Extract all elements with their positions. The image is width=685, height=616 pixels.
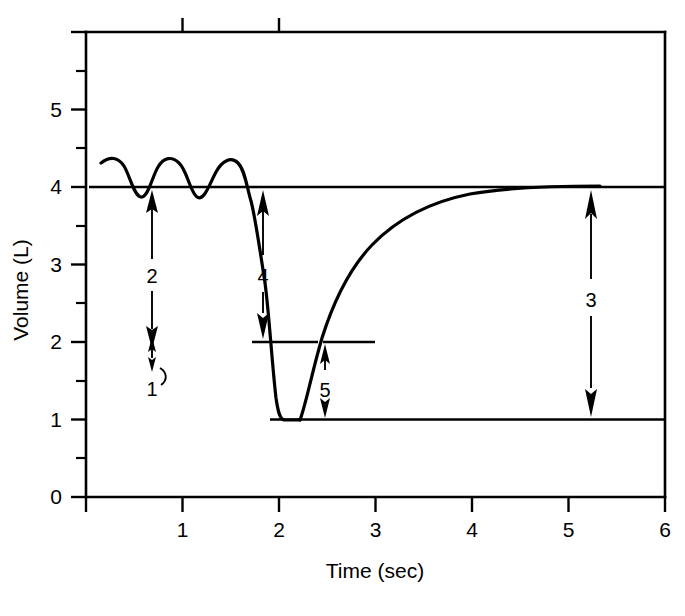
- annotation-4-label: 4: [257, 265, 268, 287]
- x-axis-title: Time (sec): [326, 559, 424, 582]
- annotation-5-arrowhead-down: [320, 398, 330, 418]
- x-tick-label-3: 3: [370, 518, 382, 541]
- x-tick-label-1: 1: [177, 518, 189, 541]
- annotation-2-group: 2: [146, 190, 158, 349]
- y-tick-label-2: 2: [50, 330, 62, 353]
- annotation-4-group: 4: [257, 190, 269, 339]
- y-axis-ticks: [71, 32, 86, 497]
- annotation-1-label: 1: [146, 378, 157, 400]
- annotation-5-label: 5: [319, 379, 330, 401]
- reference-lines: [89, 187, 665, 420]
- annotation-3-label: 3: [585, 289, 596, 311]
- figure-container: 0 1 2 3 4 5 Volume (L) 1 2 3 4 5: [0, 0, 685, 616]
- y-tick-label-3: 3: [50, 253, 62, 276]
- y-axis-tick-labels: 0 1 2 3 4 5: [50, 98, 62, 508]
- annotation-1-flourish: [160, 368, 166, 385]
- annotation-3-group: 3: [585, 190, 597, 417]
- y-tick-label-5: 5: [50, 98, 62, 121]
- y-tick-label-1: 1: [50, 408, 62, 431]
- y-axis-title: Volume (L): [9, 239, 32, 341]
- x-axis-tick-labels: 1 2 3 4 5 6: [177, 518, 671, 541]
- y-tick-label-0: 0: [50, 485, 62, 508]
- annotation-5-group: 5: [319, 344, 330, 418]
- annotation-3-arrowhead-down: [585, 389, 597, 417]
- annotation-1-arrowhead-down: [148, 357, 156, 372]
- x-axis-ticks: [86, 18, 665, 512]
- x-tick-label-4: 4: [466, 518, 478, 541]
- volume-trace-group: [101, 158, 600, 420]
- annotation-2-label: 2: [146, 265, 157, 287]
- x-tick-label-2: 2: [273, 518, 285, 541]
- axes-frame: [86, 32, 665, 497]
- spirogram-chart: 0 1 2 3 4 5 Volume (L) 1 2 3 4 5: [0, 0, 685, 616]
- annotation-1-group: 1: [146, 337, 165, 400]
- y-tick-label-4: 4: [50, 175, 62, 198]
- volume-trace: [101, 158, 300, 420]
- x-tick-label-6: 6: [659, 518, 671, 541]
- annotation-4-arrowhead-down: [257, 313, 269, 339]
- x-tick-label-5: 5: [563, 518, 575, 541]
- inspiration-limb: [300, 186, 600, 420]
